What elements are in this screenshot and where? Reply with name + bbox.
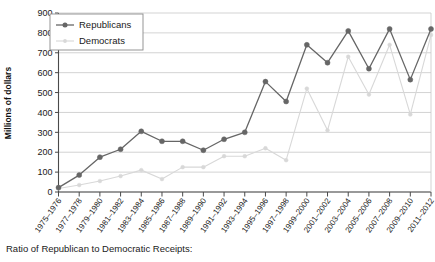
x-axis-tick-labels: 1975–19761977–19781979–19801981–19821983…: [33, 196, 435, 234]
svg-text:Democrats: Democrats: [79, 35, 125, 46]
svg-text:0: 0: [47, 187, 52, 197]
campaign-receipts-line-chart: 0100200300400500600700800900 1975–197619…: [0, 0, 435, 262]
svg-text:100: 100: [37, 167, 52, 177]
series-republicans: [56, 26, 434, 190]
svg-text:300: 300: [37, 128, 52, 138]
svg-text:400: 400: [37, 108, 52, 118]
chart-figure: 0100200300400500600700800900 1975–197619…: [0, 0, 435, 262]
svg-text:500: 500: [37, 88, 52, 98]
svg-text:600: 600: [37, 68, 52, 78]
chart-legend: RepublicansDemocrats: [50, 14, 143, 50]
svg-text:200: 200: [37, 147, 52, 157]
y-axis-label: Millions of dollars: [3, 67, 13, 140]
series-democrats: [57, 33, 433, 190]
svg-text:Republicans: Republicans: [79, 19, 132, 30]
chart-caption: Ratio of Republican to Democratic Receip…: [6, 243, 192, 254]
x-axis-ticks: [59, 192, 432, 197]
